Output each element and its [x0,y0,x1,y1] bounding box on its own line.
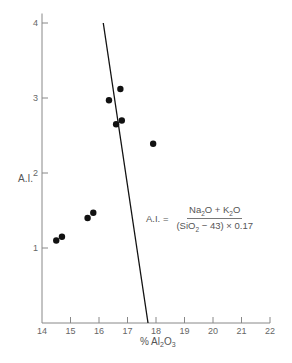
formula-lhs: A.I. = [146,213,168,224]
data-point [150,141,156,147]
data-point [117,86,123,92]
x-axis-label: % Al2O3 [140,336,176,348]
x-tick-label: 16 [94,326,104,336]
data-point [113,121,119,127]
formula-fraction: Na2O + K2O (SiO2 − 43) × 0.17 [174,204,255,233]
data-point [106,97,112,103]
data-point [119,117,125,123]
scatter-plot: 1415161718192021221234 A.I. % Al2O3 [0,0,292,363]
x-tick-label: 15 [65,326,75,336]
x-tick-label: 22 [265,326,275,336]
data-point [59,234,65,240]
data-points [53,86,156,244]
y-tick-label: 2 [33,168,38,178]
x-tick-label: 18 [151,326,161,336]
y-tick-label: 4 [33,18,38,28]
x-tick-label: 21 [236,326,246,336]
discriminant-line [103,23,148,323]
y-tick-label: 3 [33,93,38,103]
x-tick-label: 19 [179,326,189,336]
x-tick-label: 17 [122,326,132,336]
reference-line [103,23,148,323]
x-tick-label: 14 [37,326,47,336]
ticks: 1415161718192021221234 [33,18,275,336]
x-tick-label: 20 [208,326,218,336]
formula-denominator: (SiO2 − 43) × 0.17 [174,219,255,233]
axes [42,14,270,324]
y-tick-label: 1 [33,243,38,253]
formula-numerator: Na2O + K2O [187,204,242,219]
data-point [53,237,59,243]
data-point [84,215,90,221]
formula-annotation: A.I. = Na2O + K2O (SiO2 − 43) × 0.17 [146,204,255,233]
data-point [90,210,96,216]
y-axis-label: A.I. [18,173,33,184]
